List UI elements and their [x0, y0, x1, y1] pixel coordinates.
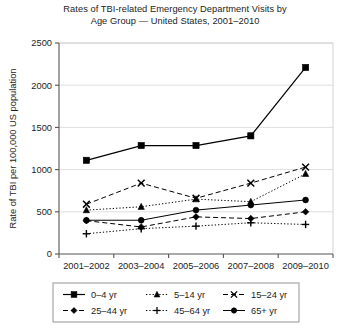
gridlines: [59, 43, 333, 212]
x-marker: [247, 180, 254, 187]
x-tick-label: 2001–2002: [63, 261, 110, 271]
legend-label: 0–4 yr: [91, 290, 117, 300]
circle-marker: [231, 308, 236, 313]
circle-marker: [193, 207, 199, 213]
x-tick-label: 2007–2008: [228, 261, 275, 271]
series-5: [83, 219, 310, 237]
legend-label: 15–24 yr: [251, 290, 287, 300]
circle-marker: [84, 217, 90, 223]
y-axis-label: Rate of TBI per 100,000 US population: [8, 68, 18, 228]
square-marker: [303, 64, 309, 70]
y-tick-label: 500: [36, 207, 52, 217]
x-tick-label: 2005–2006: [173, 261, 220, 271]
x-axis-ticks: 2001–20022003–20042005–20062007–20082009…: [59, 254, 333, 271]
triangle-marker: [83, 207, 89, 213]
diamond-marker: [302, 209, 309, 216]
plus-marker: [192, 222, 199, 229]
square-marker: [83, 157, 89, 163]
x-tick-label: 2003–2004: [118, 261, 165, 271]
chart-legend: 0–4 yr5–14 yr15–24 yr25–44 yr45–64 yr65+…: [53, 283, 299, 322]
plus-marker: [247, 219, 254, 226]
y-tick-label: 1500: [31, 123, 52, 133]
circle-marker: [248, 202, 254, 208]
legend-label: 25–44 yr: [91, 306, 127, 316]
y-axis-ticks: 05001000150020002500: [31, 38, 59, 259]
legend-label: 45–64 yr: [174, 306, 210, 316]
triangle-marker: [302, 170, 308, 176]
y-tick-label: 2000: [31, 81, 52, 91]
chart-plot: 05001000150020002500 2001–20022003–20042…: [0, 0, 350, 328]
series-1: [83, 64, 308, 163]
legend-label: 65+ yr: [251, 306, 277, 316]
square-marker: [71, 292, 77, 298]
y-tick-label: 0: [47, 249, 52, 259]
square-marker: [138, 142, 144, 148]
chart-container: Rates of TBI-related Emergency Departmen…: [0, 0, 350, 328]
legend-label: 5–14 yr: [174, 290, 205, 300]
square-marker: [193, 142, 199, 148]
plus-marker: [302, 221, 309, 228]
circle-marker: [138, 217, 144, 223]
x-marker: [138, 180, 145, 187]
series-2: [83, 170, 308, 212]
plus-marker: [83, 230, 90, 237]
diamond-marker: [193, 214, 200, 221]
y-tick-label: 1000: [31, 165, 52, 175]
y-tick-label: 2500: [31, 38, 52, 48]
square-marker: [248, 133, 254, 139]
x-tick-label: 2009–2010: [282, 261, 329, 271]
circle-marker: [303, 197, 309, 203]
